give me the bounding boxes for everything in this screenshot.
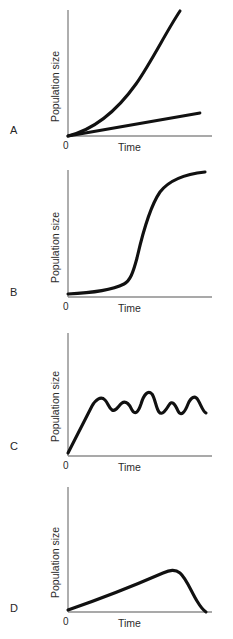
panel-a-chart: 0 Time Population size — [0, 0, 233, 160]
y-axis-label: Population size — [49, 371, 61, 442]
origin-label: 0 — [63, 301, 69, 312]
panel-b: B 0 Time Population size — [0, 160, 233, 320]
y-axis-label: Population size — [49, 51, 61, 122]
linear-growth-curve — [68, 113, 200, 136]
panel-c: C 0 Time Population size — [0, 320, 233, 480]
fluctuating-population-curve — [68, 392, 206, 453]
panel-b-chart: 0 Time Population size — [0, 160, 233, 320]
x-axis-label: Time — [118, 461, 141, 473]
x-axis-label: Time — [118, 141, 141, 153]
origin-label: 0 — [63, 140, 69, 151]
y-axis-label: Population size — [49, 527, 61, 598]
x-axis-label: Time — [118, 302, 141, 314]
panel-c-chart: 0 Time Population size — [0, 320, 233, 480]
origin-label: 0 — [63, 616, 69, 627]
x-axis-label: Time — [118, 617, 141, 629]
panel-a: A 0 Time Population size — [0, 0, 233, 160]
logistic-growth-curve — [68, 172, 205, 294]
overshoot-and-crash-curve — [68, 570, 206, 612]
panel-d: D 0 Time Population size — [0, 479, 233, 639]
population-growth-figure: A 0 Time Population size B 0 Time Popula… — [0, 0, 233, 639]
y-axis-label: Population size — [49, 212, 61, 283]
origin-label: 0 — [63, 460, 69, 471]
panel-d-chart: 0 Time Population size — [0, 479, 233, 639]
exponential-growth-curve — [68, 11, 180, 136]
